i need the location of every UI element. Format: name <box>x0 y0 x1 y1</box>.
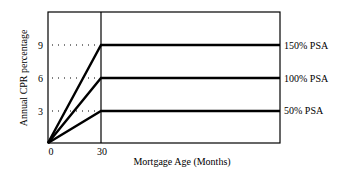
x-tick-0: 0 <box>49 146 54 157</box>
label-100-psa: 100% PSA <box>284 73 329 84</box>
series-150-psa <box>48 45 280 143</box>
series-50-psa <box>48 111 280 143</box>
label-150-psa: 150% PSA <box>284 40 329 51</box>
y-tick-9: 9 <box>38 40 43 51</box>
psa-chart: 9 6 3 0 30 Mortgage Age (Months) Annual … <box>0 0 350 170</box>
y-tick-6: 6 <box>38 73 43 84</box>
label-50-psa: 50% PSA <box>284 105 324 116</box>
y-axis-label: Annual CPR percentage <box>18 29 29 126</box>
x-axis-label: Mortgage Age (Months) <box>133 156 230 168</box>
x-tick-30: 30 <box>97 146 107 157</box>
y-tick-3: 3 <box>38 106 43 117</box>
